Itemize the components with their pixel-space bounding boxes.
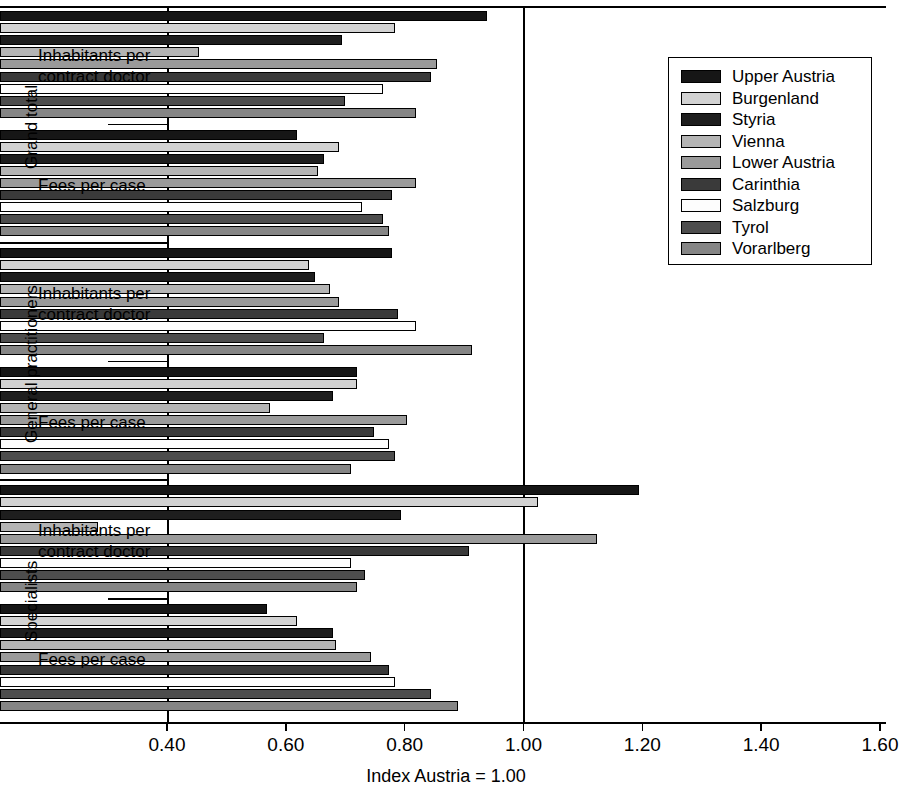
legend-item-vorarlberg[interactable]: Vorarlberg (669, 238, 871, 260)
bar-vorarlberg (0, 345, 472, 355)
x-tick-5 (760, 722, 762, 731)
group-label-1: Fees per case (38, 175, 166, 196)
bar-tyrol (0, 689, 431, 699)
supergroup-label-specialists: Specialists (22, 560, 42, 641)
bar-salzburg (0, 677, 395, 687)
plot-top-rule (0, 6, 886, 8)
legend-label-styria: Styria (732, 111, 775, 128)
bar-tyrol (0, 333, 324, 343)
group-separator-5 (108, 598, 167, 600)
bar-burgenland (0, 260, 309, 270)
legend-item-vienna[interactable]: Vienna (669, 131, 871, 153)
x-tick-6 (879, 722, 881, 731)
group-separator-1 (108, 124, 167, 126)
bar-styria (0, 272, 315, 282)
bar-burgenland (0, 23, 395, 33)
group-label-3: Fees per case (38, 412, 166, 433)
x-tick-label-2: 0.80 (370, 734, 440, 756)
bar-vorarlberg (0, 582, 357, 592)
legend-label-salzburg: Salzburg (732, 197, 799, 214)
bar-tyrol (0, 214, 383, 224)
x-tick-4 (642, 722, 644, 731)
legend-label-carinthia: Carinthia (732, 176, 800, 193)
x-tick-label-1: 0.60 (251, 734, 321, 756)
supergroup-separator-4 (0, 479, 167, 481)
legend-item-salzburg[interactable]: Salzburg (669, 195, 871, 217)
group-separator-3 (108, 361, 167, 363)
legend-swatch-vienna (681, 135, 721, 148)
bar-styria (0, 510, 401, 520)
legend-swatch-vorarlberg (681, 242, 721, 255)
legend-swatch-carinthia (681, 178, 721, 191)
legend-item-upper-austria[interactable]: Upper Austria (669, 66, 871, 88)
x-axis-title: Index Austria = 1.00 (0, 766, 892, 787)
legend-item-carinthia[interactable]: Carinthia (669, 174, 871, 196)
legend: Upper AustriaBurgenlandStyriaViennaLower… (668, 57, 872, 265)
x-axis (0, 722, 886, 724)
legend-swatch-upper-austria (681, 70, 721, 83)
legend-swatch-salzburg (681, 199, 721, 212)
x-tick-label-3: 1.00 (489, 734, 559, 756)
legend-swatch-styria (681, 113, 721, 126)
bar-vorarlberg (0, 701, 458, 711)
legend-label-upper-austria: Upper Austria (732, 68, 835, 85)
legend-item-tyrol[interactable]: Tyrol (669, 217, 871, 239)
group-label-5: Fees per case (38, 649, 166, 670)
group-label-2: Inhabitants percontract doctor (38, 283, 166, 325)
x-tick-3 (523, 722, 525, 731)
bar-upper-austria (0, 485, 639, 495)
legend-item-burgenland[interactable]: Burgenland (669, 88, 871, 110)
bar-burgenland (0, 379, 357, 389)
x-tick-label-4: 1.20 (607, 734, 677, 756)
legend-swatch-lower-austria (681, 156, 721, 169)
bar-salzburg (0, 439, 389, 449)
bar-styria (0, 628, 333, 638)
bar-burgenland (0, 142, 339, 152)
supergroup-label-general-practitioners: General practitioners (22, 285, 42, 443)
legend-label-vorarlberg: Vorarlberg (732, 240, 810, 257)
bar-tyrol (0, 96, 345, 106)
bar-vorarlberg (0, 464, 351, 474)
bar-tyrol (0, 570, 365, 580)
bar-vorarlberg (0, 108, 416, 118)
legend-swatch-burgenland (681, 92, 721, 105)
legend-label-lower-austria: Lower Austria (732, 154, 835, 171)
bar-salzburg (0, 202, 362, 212)
legend-item-lower-austria[interactable]: Lower Austria (669, 152, 871, 174)
supergroup-separator-2 (0, 242, 167, 244)
bar-vorarlberg (0, 226, 389, 236)
bar-burgenland (0, 616, 297, 626)
bar-upper-austria (0, 11, 487, 21)
legend-label-tyrol: Tyrol (732, 219, 769, 236)
x-tick-2 (404, 722, 406, 731)
bar-upper-austria (0, 130, 297, 140)
bar-tyrol (0, 451, 395, 461)
bar-upper-austria (0, 367, 357, 377)
legend-label-vienna: Vienna (732, 133, 785, 150)
bar-styria (0, 35, 342, 45)
bar-styria (0, 154, 324, 164)
x-tick-label-6: 1.60 (845, 734, 903, 756)
x-tick-0 (166, 722, 168, 731)
bar-upper-austria (0, 248, 392, 258)
group-label-0: Inhabitants percontract doctor (38, 45, 166, 87)
index-reference-line (523, 6, 525, 722)
x-tick-1 (285, 722, 287, 731)
bar-styria (0, 391, 333, 401)
legend-label-burgenland: Burgenland (732, 90, 819, 107)
legend-item-styria[interactable]: Styria (669, 109, 871, 131)
x-tick-label-0: 0.40 (132, 734, 202, 756)
bar-burgenland (0, 497, 538, 507)
group-label-4: Inhabitants percontract doctor (38, 520, 166, 562)
x-tick-label-5: 1.40 (726, 734, 796, 756)
supergroup-label-grand-total: Grand total (22, 84, 42, 168)
legend-swatch-tyrol (681, 221, 721, 234)
